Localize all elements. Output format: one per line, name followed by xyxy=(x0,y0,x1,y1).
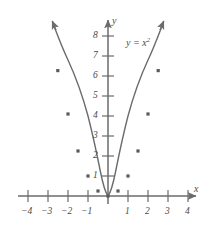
y-tick-label-1: 1 xyxy=(93,171,98,181)
data-point-marker xyxy=(136,149,139,152)
data-point-marker xyxy=(96,189,99,192)
equation-label: y = x2 xyxy=(126,38,150,48)
data-point-marker xyxy=(146,112,149,115)
equation-label-exponent: 2 xyxy=(147,36,150,43)
data-point-marker xyxy=(86,174,89,177)
x-axis-label: x xyxy=(194,184,198,194)
y-tick-label-4: 4 xyxy=(93,111,98,121)
y-tick-label-2: 2 xyxy=(93,151,98,161)
data-point-marker xyxy=(76,149,79,152)
data-point-marker xyxy=(126,174,129,177)
y-axis-label: y xyxy=(112,16,116,26)
graph-figure: −4 −3 −2 −1 1 2 3 4 1 2 3 4 5 6 7 8 y x … xyxy=(0,0,211,227)
plot-canvas xyxy=(0,0,211,227)
data-point-marker xyxy=(56,69,59,72)
x-tick-label-3: 3 xyxy=(165,207,170,217)
x-tick-label-neg3: −3 xyxy=(41,207,52,217)
data-point-marker xyxy=(106,194,109,197)
x-tick-label-1: 1 xyxy=(125,207,130,217)
data-point-marker xyxy=(157,69,160,72)
x-tick-label-neg1: −1 xyxy=(81,207,92,217)
x-tick-label-2: 2 xyxy=(145,207,150,217)
data-point-marker xyxy=(66,112,69,115)
y-tick-label-5: 5 xyxy=(93,91,98,101)
y-tick-label-3: 3 xyxy=(93,131,98,141)
x-tick-label-4: 4 xyxy=(185,207,190,217)
data-point-marker xyxy=(116,189,119,192)
y-tick-label-8: 8 xyxy=(93,31,98,41)
x-tick-label-neg4: −4 xyxy=(21,207,32,217)
y-tick-label-6: 6 xyxy=(93,71,98,81)
x-tick-label-neg2: −2 xyxy=(61,207,72,217)
y-tick-label-7: 7 xyxy=(93,51,98,61)
equation-label-base: y = x xyxy=(126,37,147,48)
y-axis xyxy=(102,20,114,204)
